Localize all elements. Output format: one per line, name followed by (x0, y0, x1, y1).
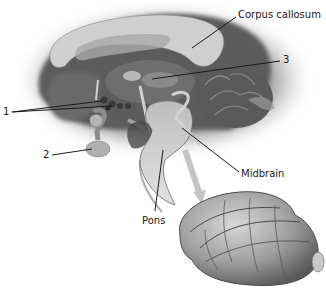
label-2: 2 (43, 150, 49, 160)
brain-diagram: Corpus callosum 3 1 2 Midbrain Pons (0, 0, 326, 292)
label-3: 3 (283, 55, 289, 65)
label-1: 1 (3, 107, 9, 117)
cerebellum-exploded (179, 192, 324, 286)
leader-2 (52, 149, 92, 155)
label-corpus-callosum: Corpus callosum (238, 10, 321, 20)
label-pons: Pons (142, 216, 165, 226)
label-midbrain: Midbrain (241, 169, 284, 179)
brain-illustration (0, 0, 326, 292)
